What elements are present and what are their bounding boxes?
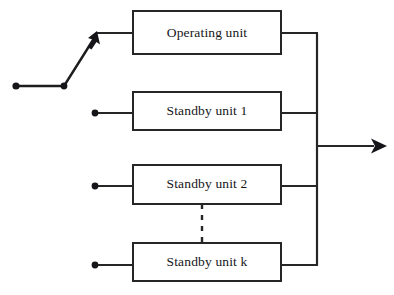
standby-unit-2-terminal-dot (92, 183, 99, 190)
output-arrow-group (316, 139, 387, 154)
standby-unit-k-terminal-dot (92, 262, 99, 269)
input-switch-group[interactable] (12, 31, 100, 90)
standby-unit-1-group: Standby unit 1 (92, 92, 318, 130)
standby-unit-2-label: Standby unit 2 (167, 176, 248, 191)
block-diagram-canvas: Operating unit Standby unit 1 (0, 0, 394, 295)
operating-unit-label: Operating unit (167, 25, 248, 40)
switch-pivot-dot (61, 83, 68, 90)
diagram-svg: Operating unit Standby unit 1 (0, 0, 394, 295)
standby-unit-k-group: Standby unit k (92, 243, 318, 281)
operating-unit-group: Operating unit (96, 11, 318, 54)
standby-unit-k-label: Standby unit k (167, 254, 248, 269)
switch-source-terminal-dot (12, 82, 19, 89)
standby-unit-2-group: Standby unit 2 (92, 165, 318, 204)
standby-unit-1-terminal-dot (92, 110, 99, 117)
standby-unit-1-label: Standby unit 1 (167, 103, 248, 118)
